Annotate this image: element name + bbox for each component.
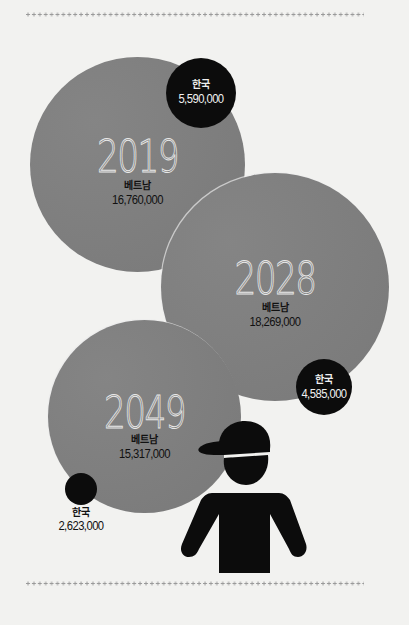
plus-dot-divider-icon [26, 581, 364, 586]
child-with-cap-icon [0, 0, 409, 625]
bottom-divider [26, 581, 364, 585]
